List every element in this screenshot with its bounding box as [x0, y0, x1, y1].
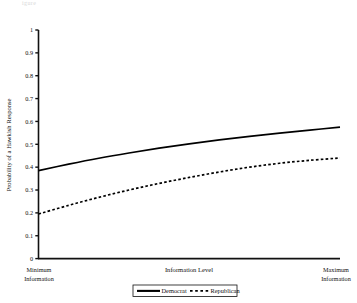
series-line-republican — [39, 158, 341, 214]
line-chart: 00.10.20.30.40.50.60.70.80.91 Probabilit… — [0, 0, 357, 303]
y-axis-tick-label: 0 — [30, 255, 33, 262]
y-axis-title: Probability of a Hawkish Response — [5, 98, 12, 191]
y-axis-tick-label: 0.9 — [25, 49, 33, 56]
x-axis-right-label-line1: Maximum — [323, 266, 349, 273]
y-axis-tick-label: 0.8 — [25, 72, 33, 79]
figure-container: igure 00.10.20.30.40.50.60.70.80.91 Prob… — [0, 0, 357, 303]
x-axis-right-label-line2: Information — [321, 275, 351, 282]
x-axis-title: Information Level — [165, 266, 213, 273]
y-axis-tick-label: 0.3 — [25, 186, 33, 193]
y-axis-tick-label: 0.1 — [25, 232, 33, 239]
y-axis-tick-label-group: 00.10.20.30.40.50.60.70.80.91 — [25, 26, 33, 262]
x-axis-left-label-line1: Minimum — [27, 266, 52, 273]
legend-label-republican: Republican — [211, 287, 241, 294]
y-axis-tick-label: 0.4 — [25, 163, 33, 170]
y-axis-tick-label: 0.6 — [25, 118, 33, 125]
legend-label-democrat: Democrat — [162, 287, 187, 294]
y-axis-tick-label: 0.5 — [25, 141, 33, 148]
chart-legend: Democrat Republican — [133, 285, 240, 297]
y-axis-tick-label: 0.2 — [25, 209, 33, 216]
y-axis-tick-label: 0.7 — [25, 95, 33, 102]
y-axis-tick-label: 1 — [30, 26, 33, 33]
series-line-democrat — [39, 127, 341, 170]
x-axis-left-label-line2: Information — [24, 275, 54, 282]
